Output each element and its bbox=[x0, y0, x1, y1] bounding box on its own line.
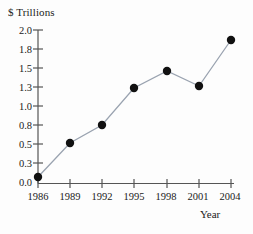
data-point-1995 bbox=[130, 84, 138, 92]
data-point-1992 bbox=[98, 121, 106, 129]
data-point-1986 bbox=[34, 173, 42, 181]
x-axis bbox=[38, 179, 234, 188]
y-axis bbox=[33, 30, 43, 184]
line-chart: $ Trillions Year 2.0 1.8 1.5 1.3 1.0 0.8… bbox=[0, 0, 253, 234]
data-point-2004 bbox=[227, 36, 235, 44]
data-markers bbox=[34, 36, 235, 181]
data-point-2001 bbox=[195, 82, 203, 90]
plot-area bbox=[0, 0, 253, 234]
data-line bbox=[38, 40, 231, 177]
data-point-1998 bbox=[163, 67, 171, 75]
data-point-1989 bbox=[66, 139, 74, 147]
